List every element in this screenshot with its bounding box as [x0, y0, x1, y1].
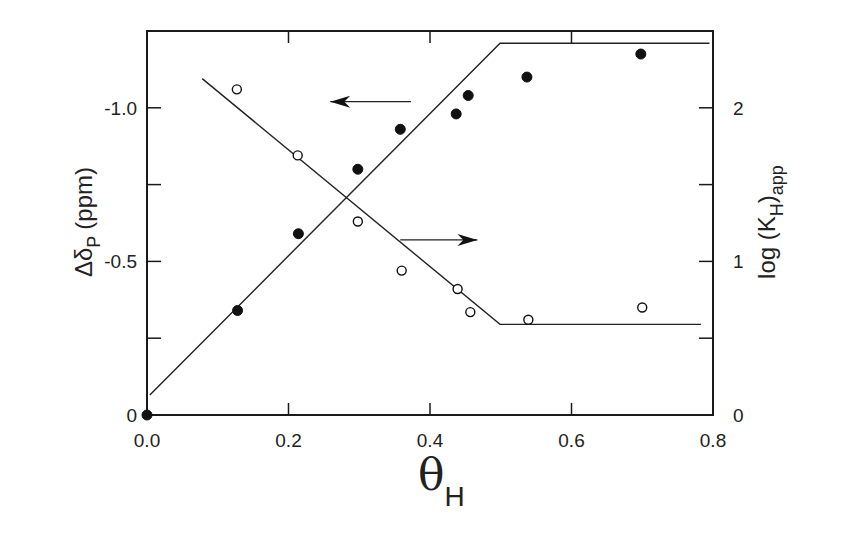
open-data-point — [524, 315, 533, 324]
y-right-subscript-app: app — [767, 165, 787, 195]
y-left-tick-label: -0.5 — [104, 251, 137, 272]
filled-data-point — [142, 410, 152, 420]
y-left-tick-label: -1.0 — [104, 98, 137, 119]
filled-data-point — [451, 109, 461, 119]
x-tick-label: 0.8 — [700, 430, 726, 451]
open-data-point — [353, 217, 362, 226]
y-axis-left-title: ΔδP(ppm) — [70, 167, 104, 277]
filled-data-point — [353, 164, 363, 174]
y-right-text: log (K — [753, 216, 780, 279]
filled-data-point — [233, 306, 243, 316]
open-data-point — [466, 308, 475, 317]
data-points — [142, 49, 647, 420]
y-left-subscript: P — [84, 236, 104, 248]
y-right-subscript-h: H — [767, 203, 787, 216]
open-data-point — [397, 266, 406, 275]
y-left-symbol: Δδ — [70, 248, 97, 277]
chart: 0.00.20.40.60.80-0.5-1.0012 ΔδP(ppm) log… — [0, 0, 843, 547]
x-tick-label: 0.0 — [134, 430, 160, 451]
open-data-point — [232, 85, 241, 94]
fit-line — [150, 43, 710, 395]
y-right-tick-label: 0 — [733, 405, 744, 426]
axis-ticks: 0.00.20.40.60.80-0.5-1.0012 — [104, 31, 743, 451]
filled-data-point — [463, 91, 473, 101]
open-data-point — [453, 285, 462, 294]
open-data-point — [293, 151, 302, 160]
filled-data-point — [293, 229, 303, 239]
open-data-point — [638, 303, 647, 312]
y-right-tick-label: 2 — [733, 98, 744, 119]
y-right-close-paren: ) — [753, 195, 780, 203]
x-symbol: θ — [418, 449, 445, 500]
fit-lines — [150, 43, 710, 395]
y-left-unit: (ppm) — [70, 167, 97, 230]
y-left-tick-label: 0 — [126, 405, 137, 426]
x-tick-label: 0.4 — [417, 430, 444, 451]
y-right-tick-label: 1 — [733, 251, 744, 272]
x-tick-label: 0.6 — [558, 430, 584, 451]
x-axis-title: θH — [418, 449, 465, 512]
filled-data-point — [395, 124, 405, 134]
x-subscript: H — [445, 481, 465, 512]
filled-data-point — [522, 72, 532, 82]
x-tick-label: 0.2 — [275, 430, 301, 451]
y-axis-right-title: log (KH)app — [753, 165, 787, 279]
filled-data-point — [636, 49, 646, 59]
